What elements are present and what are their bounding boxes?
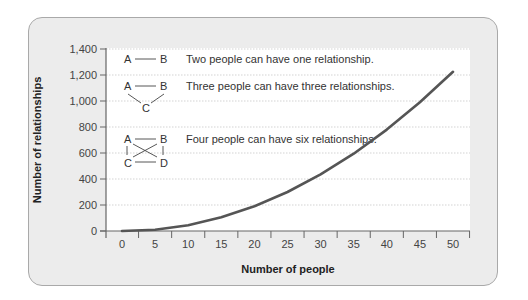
x-tick-label: 15	[215, 238, 227, 250]
y-axis: 02004006008001,0001,2001,400	[69, 43, 106, 238]
annotation-text: Three people can have three relationship…	[186, 80, 395, 92]
x-tick-label: 0	[119, 238, 125, 250]
node-a: A	[124, 133, 132, 145]
x-tick-label: 40	[381, 238, 393, 250]
node-b: B	[160, 53, 167, 65]
y-tick-label: 600	[79, 147, 97, 159]
x-tick-label: 10	[182, 238, 194, 250]
y-tick-label: 1,400	[69, 43, 97, 55]
x-tick-label: 30	[314, 238, 326, 250]
annotation-text: Four people can have six relationships.	[186, 133, 377, 145]
y-tick-label: 1,200	[69, 69, 97, 81]
y-tick-label: 800	[79, 121, 97, 133]
x-tick-label: 25	[281, 238, 293, 250]
x-tick-label: 45	[414, 238, 426, 250]
annotation-text: Two people can have one relationship.	[186, 53, 374, 65]
x-tick-label: 35	[348, 238, 360, 250]
y-tick-label: 0	[91, 225, 97, 237]
x-tick-label: 50	[447, 238, 459, 250]
node-c: C	[124, 157, 132, 169]
x-tick-label: 5	[152, 238, 158, 250]
node-b: B	[160, 133, 167, 145]
x-axis: 05101520253035404550	[100, 231, 470, 250]
relationships-chart: 02004006008001,0001,2001,400 05101520253…	[0, 0, 528, 300]
y-axis-title: Number of relationships	[31, 77, 43, 204]
node-b: B	[160, 80, 167, 92]
node-d: D	[160, 157, 168, 169]
y-tick-label: 1,000	[69, 95, 97, 107]
x-tick-label: 20	[248, 238, 260, 250]
node-a: A	[124, 80, 132, 92]
annotation-two-people: A B Two people can have one relationship…	[124, 53, 374, 65]
y-tick-label: 400	[79, 173, 97, 185]
x-axis-title: Number of people	[241, 263, 335, 275]
y-tick-label: 200	[79, 199, 97, 211]
node-a: A	[124, 53, 132, 65]
node-c: C	[142, 102, 150, 114]
